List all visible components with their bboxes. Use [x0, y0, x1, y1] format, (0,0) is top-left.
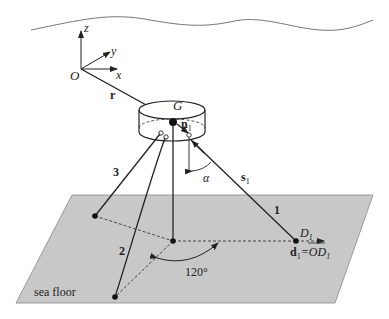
- vector-n-label: n1: [181, 117, 192, 133]
- anchor-point-center: [170, 238, 176, 244]
- mooring-diagram: z y x O r G n1 s1 α: [0, 0, 389, 319]
- vector-s-label: s1: [241, 170, 250, 186]
- angle-alpha-arc: [192, 162, 211, 171]
- body-label-g: G: [173, 98, 183, 113]
- axis-label-x: x: [115, 68, 122, 82]
- center-of-mass-dot: [169, 118, 177, 126]
- cable-label-1: 1: [274, 203, 280, 217]
- origin-label: O: [70, 68, 80, 83]
- vector-s1: [192, 141, 204, 153]
- cable-label-2: 2: [119, 244, 125, 258]
- axis-label-y: y: [110, 44, 117, 58]
- angle-120-label: 120°: [185, 265, 208, 279]
- vector-r-label: r: [110, 88, 116, 102]
- sea-floor-label: sea floor: [34, 285, 76, 299]
- cable-label-3: 3: [113, 165, 119, 179]
- anchor-point-2: [112, 294, 118, 300]
- angle-alpha-label: α: [203, 171, 210, 185]
- axis-label-z: z: [83, 21, 89, 35]
- fairlead-point-1: [187, 133, 191, 137]
- anchor-point-1: [293, 238, 299, 244]
- d1-equation: d1=OD1: [290, 245, 330, 261]
- anchor-point-3: [92, 213, 98, 219]
- sea-surface-line: [31, 17, 373, 31]
